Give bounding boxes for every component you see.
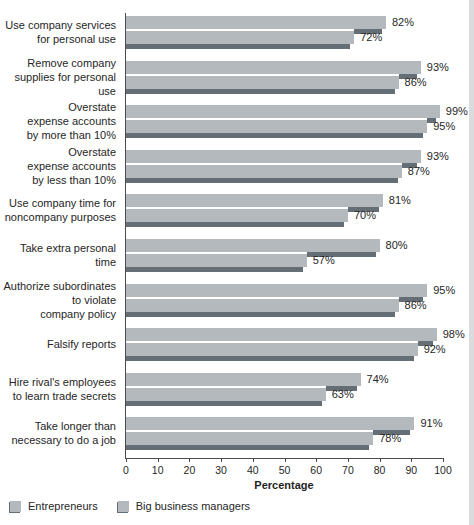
- legend-swatch-icon: [118, 501, 129, 512]
- category-label: Take longer thannecessary to do a job: [3, 419, 116, 447]
- bar-value-label: 70%: [354, 208, 376, 222]
- x-axis-tick: [443, 458, 444, 462]
- page-scan-edge: [469, 0, 474, 525]
- bar-big-business-managers: [126, 386, 326, 401]
- x-axis-tick-label: 40: [247, 464, 259, 476]
- bar-value-label: 92%: [424, 342, 446, 356]
- x-axis-tick: [380, 458, 381, 462]
- category-label: Overstateexpense accountsby less than 10…: [3, 145, 116, 187]
- bar-value-label: 91%: [420, 417, 442, 430]
- x-axis-tick-label: 100: [434, 464, 452, 476]
- x-axis-tick: [253, 458, 254, 462]
- bar-entrepreneurs: [126, 61, 421, 74]
- category-label: Take extra personal time: [3, 241, 116, 269]
- bar-big-business-managers: [126, 74, 399, 89]
- bar-value-label: 93%: [427, 150, 449, 163]
- bar-value-label: 63%: [332, 387, 354, 401]
- bar-entrepreneurs: [126, 328, 437, 341]
- bar-entrepreneurs: [126, 150, 421, 163]
- category-label: Remove companysupplies for personal use: [3, 56, 116, 98]
- legend-item-big-business-managers: Big business managers: [118, 500, 250, 512]
- bar-big-business-managers: [126, 252, 307, 267]
- bar-big-business-managers: [126, 430, 373, 445]
- bar-value-label: 86%: [405, 75, 427, 89]
- category-label: Hire rival's employeesto learn trade sec…: [3, 375, 116, 403]
- category-label: Falsify reports: [3, 337, 116, 351]
- bar-entrepreneurs: [126, 16, 386, 29]
- bar-value-label: 95%: [433, 284, 455, 297]
- legend-label: Entrepreneurs: [28, 500, 98, 512]
- bar-big-business-managers: [126, 29, 354, 44]
- bar-value-label: 74%: [367, 373, 389, 386]
- bar-value-label: 93%: [427, 61, 449, 74]
- bar-value-label: 57%: [313, 253, 335, 267]
- plot-area: Use company servicesfor personal use82%7…: [125, 13, 443, 459]
- category-label: Overstateexpense accountsby more than 10…: [3, 100, 116, 142]
- x-axis-tick: [316, 458, 317, 462]
- bar-entrepreneurs: [126, 373, 361, 386]
- bar-entrepreneurs: [126, 284, 427, 297]
- bar-big-business-managers: [126, 118, 427, 133]
- bar-value-label: 95%: [433, 119, 455, 133]
- bar-entrepreneurs: [126, 194, 383, 207]
- legend-label: Big business managers: [136, 500, 250, 512]
- x-axis-tick-label: 50: [279, 464, 291, 476]
- x-axis-tick-label: 80: [374, 464, 386, 476]
- bar-big-business-managers: [126, 207, 348, 222]
- grouped-bar-chart: Use company servicesfor personal use82%7…: [0, 0, 474, 525]
- bar-groups: Use company servicesfor personal use82%7…: [126, 13, 443, 459]
- bar-group: Hire rival's employeesto learn trade sec…: [126, 370, 443, 415]
- x-axis-tick: [221, 458, 222, 462]
- bar-value-label: 87%: [408, 164, 430, 178]
- bar-big-business-managers: [126, 341, 418, 356]
- x-axis-tick: [285, 458, 286, 462]
- bar-entrepreneurs: [126, 239, 380, 252]
- category-label: Authorize subordinatesto violatecompany …: [3, 279, 116, 321]
- category-label: Use company time fornoncompany purposes: [3, 196, 116, 224]
- x-axis-tick: [189, 458, 190, 462]
- bar-group: Remove companysupplies for personal use9…: [126, 58, 443, 103]
- x-axis-tick-label: 60: [310, 464, 322, 476]
- x-axis-tick-label: 70: [342, 464, 354, 476]
- x-axis-tick: [411, 458, 412, 462]
- category-label: Use company servicesfor personal use: [3, 18, 116, 46]
- bar-value-label: 82%: [392, 16, 414, 29]
- x-axis-tick-label: 20: [184, 464, 196, 476]
- bar-value-label: 98%: [443, 328, 465, 341]
- bar-value-label: 86%: [405, 298, 427, 312]
- bar-value-label: 99%: [446, 105, 468, 118]
- bar-value-label: 80%: [386, 239, 408, 252]
- x-axis-tick-label: 0: [123, 464, 129, 476]
- bar-group: Take longer thannecessary to do a job91%…: [126, 414, 443, 459]
- x-axis-tick: [126, 458, 127, 462]
- bar-big-business-managers: [126, 297, 399, 312]
- bar-group: Authorize subordinatesto violatecompany …: [126, 281, 443, 326]
- x-axis-tick-label: 30: [215, 464, 227, 476]
- x-axis-title: Percentage: [125, 479, 443, 491]
- bar-group: Falsify reports98%92%: [126, 325, 443, 370]
- x-axis-tick-label: 90: [405, 464, 417, 476]
- legend-swatch-icon: [10, 501, 21, 512]
- bar-group: Overstateexpense accountsby less than 10…: [126, 147, 443, 192]
- bar-group: Use company servicesfor personal use82%7…: [126, 13, 443, 58]
- bar-group: Overstateexpense accountsby more than 10…: [126, 102, 443, 147]
- bar-value-label: 81%: [389, 194, 411, 207]
- bar-big-business-managers: [126, 163, 402, 178]
- x-axis-tick: [158, 458, 159, 462]
- bar-value-label: 72%: [360, 30, 382, 44]
- bar-entrepreneurs: [126, 417, 414, 430]
- bar-group: Take extra personal time80%57%: [126, 236, 443, 281]
- legend: Entrepreneurs Big business managers: [10, 500, 250, 512]
- x-axis-tick-label: 10: [152, 464, 164, 476]
- bar-value-label: 78%: [379, 431, 401, 445]
- bar-group: Use company time fornoncompany purposes8…: [126, 191, 443, 236]
- x-axis-tick: [348, 458, 349, 462]
- legend-item-entrepreneurs: Entrepreneurs: [10, 500, 98, 512]
- bar-entrepreneurs: [126, 105, 440, 118]
